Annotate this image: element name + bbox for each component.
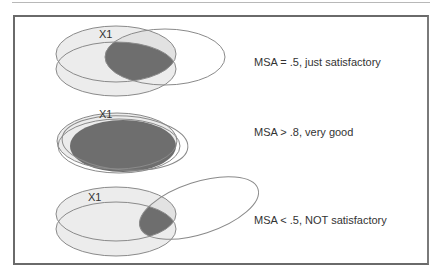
- x1-label-panel-3: X1: [88, 191, 101, 203]
- venn-diagrams: X1 X1 X1: [0, 0, 442, 278]
- venn-panel-2: [57, 112, 190, 175]
- x1-label-panel-1: X1: [99, 28, 112, 40]
- venn-panel-1: [56, 26, 225, 96]
- caption-panel-2: MSA > .8, very good: [254, 126, 353, 138]
- caption-panel-3: MSA < .5, NOT satisfactory: [254, 214, 387, 226]
- venn-panel-3: [56, 164, 266, 256]
- caption-panel-1: MSA = .5, just satisfactory: [254, 56, 381, 68]
- common-variance-dark: [70, 120, 176, 172]
- x1-label-panel-2: X1: [99, 108, 112, 120]
